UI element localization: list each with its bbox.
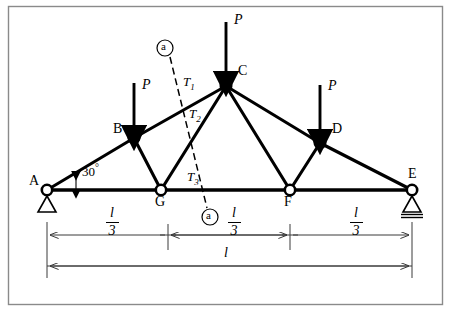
dimension-label-segment-1: l 3 — [99, 206, 125, 238]
force-label-T2: T2 — [189, 107, 201, 124]
truss-members — [47, 86, 412, 190]
figure-canvas: A B C D E G F P P P a a T1 T2 T3 30° l 3… — [0, 0, 458, 319]
section-marker-bottom-label: a — [206, 210, 211, 221]
dimension-label-total: l — [224, 245, 228, 261]
force-label-T1: T1 — [183, 75, 195, 92]
member-C-D — [226, 86, 320, 143]
angle-label-30: 30° — [82, 163, 99, 178]
member-F-D — [290, 143, 320, 190]
support-pin-A — [38, 196, 56, 212]
node-label-F: F — [284, 195, 292, 209]
member-B-C — [134, 86, 226, 138]
force-label-T3: T3 — [187, 170, 199, 187]
member-B-G — [134, 138, 161, 190]
load-label-D: P — [328, 79, 337, 93]
load-label-B: P — [142, 78, 151, 92]
dimension-label-segment-3: l 3 — [343, 206, 369, 238]
section-marker-top-label: a — [161, 41, 166, 52]
dimension-label-segment-2: l 3 — [221, 206, 247, 238]
joint-A — [42, 185, 52, 195]
joint-B — [129, 133, 139, 143]
support-roller-E — [401, 196, 423, 218]
truss-diagram-svg — [0, 0, 458, 319]
node-label-D: D — [332, 122, 342, 136]
node-label-B: B — [113, 122, 122, 136]
load-arrows — [134, 22, 320, 132]
node-label-C: C — [238, 64, 247, 78]
joint-C — [221, 81, 231, 91]
member-C-F — [226, 86, 290, 190]
joint-E — [407, 185, 417, 195]
member-D-E — [320, 143, 412, 190]
node-label-E: E — [408, 167, 417, 181]
joint-D — [315, 138, 325, 148]
load-label-C: P — [234, 13, 243, 27]
node-label-A: A — [29, 174, 39, 188]
node-label-G: G — [155, 195, 165, 209]
